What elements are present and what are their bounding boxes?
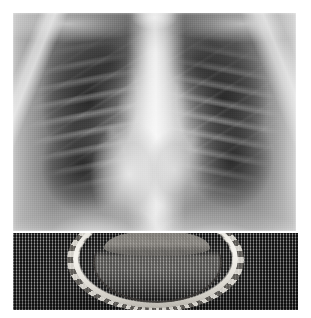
specimen-photo-grain xyxy=(13,233,298,310)
chest-radiograph-panel xyxy=(13,13,296,231)
specimen-photograph-panel xyxy=(13,233,298,310)
xray-film-border-vignette xyxy=(13,13,296,231)
figure-root xyxy=(0,0,311,318)
